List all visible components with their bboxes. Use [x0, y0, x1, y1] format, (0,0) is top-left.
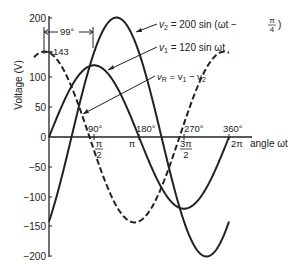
ytick-m150: −150 — [23, 221, 46, 232]
leader-arrows — [83, 28, 142, 114]
ytick-0: 0 — [40, 132, 46, 143]
xtick-3pi-half-den: 2 — [183, 149, 188, 160]
v2-paren: ) — [278, 19, 281, 30]
x-axis-label: angle ωt — [250, 138, 288, 149]
xtick-pi-half-den: 2 — [96, 149, 101, 160]
xtick-pi: π — [129, 138, 136, 149]
x-tick-labels-deg: 90° 180° 270° 360° — [88, 123, 243, 134]
peak-label: 143 — [53, 46, 69, 57]
xtick-pi-half-num: π — [96, 138, 103, 149]
label-v1: v1 = 120 sin ωt — [159, 42, 225, 54]
xtick-180: 180° — [136, 123, 156, 134]
y-tick-labels: 200 100 50 0 −50 −100 −150 −200 — [23, 13, 46, 262]
xtick-3pi-half-num: 3π — [180, 138, 192, 149]
ytick-100: 100 — [29, 72, 46, 83]
v2-four: 4 — [270, 25, 275, 34]
ytick-m200: −200 — [23, 251, 46, 262]
ytick-m100: −100 — [23, 192, 46, 203]
phase-label: 99° — [60, 26, 75, 37]
xtick-360: 360° — [223, 123, 243, 134]
ytick-200: 200 — [29, 13, 46, 24]
xtick-270: 270° — [184, 123, 204, 134]
v2-pi: π — [269, 16, 275, 25]
xtick-2pi: 2π — [231, 138, 243, 149]
ytick-50: 50 — [35, 102, 47, 113]
ytick-m50: −50 — [29, 162, 46, 173]
voltage-phasor-chart: 200 100 50 0 −50 −100 −150 −200 Voltage … — [0, 0, 294, 273]
xtick-90: 90° — [88, 123, 103, 134]
y-axis-label: Voltage (V) — [13, 60, 24, 109]
label-v2: v2 = 200 sin (ωt − — [159, 19, 237, 31]
leader-lines — [83, 24, 157, 114]
label-vR: vR = v1 − v2 — [157, 71, 206, 83]
